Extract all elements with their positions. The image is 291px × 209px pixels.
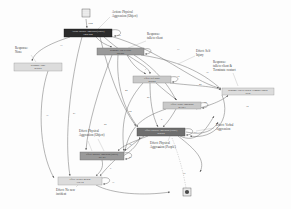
- callout-effect-physical-aggression-people: Effect: Physical Aggression (People): [150, 142, 176, 150]
- node-n3[interactable]: [133, 76, 171, 83]
- edge-count: 26: [147, 96, 149, 99]
- callout-effect-no-new-incident: Effect: No new incident: [56, 189, 75, 197]
- edge-count: 39: [206, 71, 208, 74]
- node-n8[interactable]: [14, 63, 62, 71]
- edge-count: 33: [60, 44, 62, 47]
- edge-count: 21: [73, 112, 75, 115]
- edge-count: 22: [104, 123, 106, 126]
- node-n9[interactable]: [222, 88, 274, 95]
- edge-count: 1284: [88, 22, 93, 25]
- edge-count: 42: [199, 83, 201, 86]
- node-n1[interactable]: [64, 29, 112, 37]
- diagram-canvas: Action: Physical Aggression (Object) 128…: [0, 0, 291, 209]
- edge-count: 35: [129, 143, 131, 146]
- node-n2[interactable]: [97, 48, 144, 55]
- edge-count: 16: [183, 172, 185, 175]
- edge-count: 17: [177, 48, 179, 51]
- edge-count: 160: [117, 34, 121, 37]
- edge-count: 37: [46, 114, 48, 117]
- edge-count: 9: [110, 167, 111, 170]
- callout-response-talk-to-client: Response: talk to client: [147, 33, 163, 41]
- edge-count: 14: [246, 105, 248, 108]
- callout-action-physical-aggression-object: Action: Physical Aggression (Object): [112, 11, 138, 19]
- callout-effect-physical-aggression-object: Effect: Physical Aggression (Object): [79, 130, 105, 138]
- edge-count: 23: [129, 156, 131, 159]
- edge-count: 73: [194, 131, 196, 134]
- callout-effect-verbal-aggression: Effect: Verbal Aggression: [216, 124, 233, 132]
- callout-response-none: Response: None: [15, 47, 28, 55]
- edge-count: 12: [177, 75, 179, 78]
- callout-effect-self-injury: Effect: Self Injury: [196, 50, 210, 58]
- node-n7[interactable]: [58, 177, 102, 185]
- node-n6[interactable]: [80, 152, 124, 160]
- callout-response-talk-terminate: Response: talk to client & Terminate con…: [213, 61, 236, 73]
- edge-count: 54: [129, 110, 131, 113]
- edge-count: 31: [112, 181, 114, 184]
- node-n4[interactable]: [163, 102, 201, 109]
- edge-count: 18: [204, 101, 206, 104]
- edge-count: 1: [145, 68, 146, 71]
- edge-count: 44: [125, 89, 127, 92]
- edge-count: 7: [151, 51, 152, 54]
- node-n5[interactable]: [137, 128, 185, 136]
- edge-count: 8: [161, 118, 162, 121]
- edge-count: 49: [158, 146, 160, 149]
